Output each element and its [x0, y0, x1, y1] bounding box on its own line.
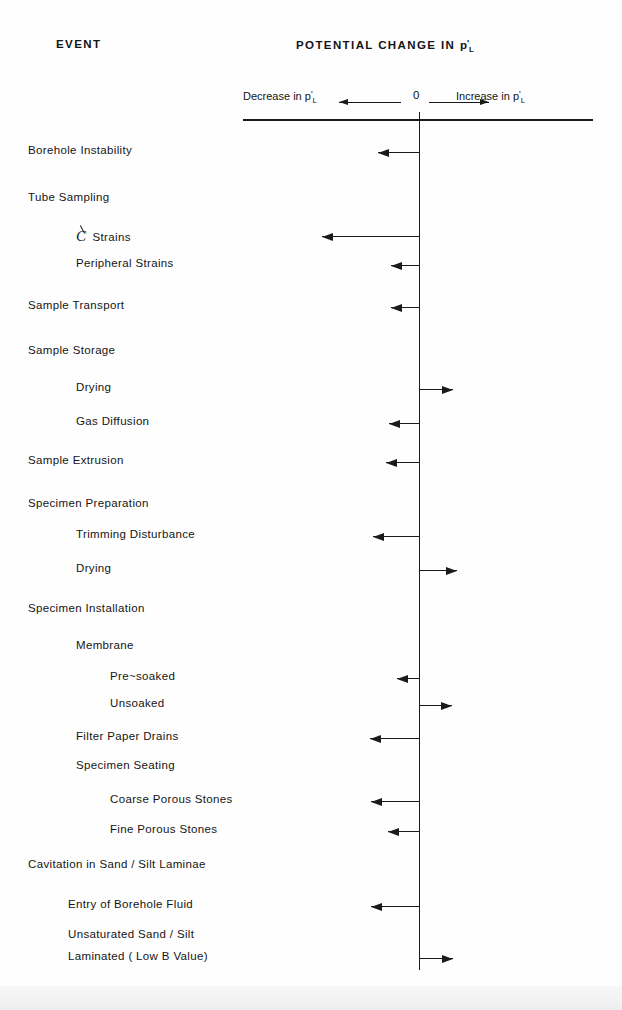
event-label-text: Strains: [89, 231, 131, 243]
event-label: Tube Sampling: [28, 191, 109, 203]
axis-caption-row: Decrease in p'L 0 Increase in p'L: [243, 89, 591, 111]
event-label: Borehole Instability: [28, 144, 132, 156]
centerline-icon: C: [76, 228, 89, 245]
event-label: Coarse Porous Stones: [110, 793, 233, 805]
decrease-arrow-icon: [389, 419, 419, 428]
potential-header-text: POTENTIAL CHANGE IN: [296, 39, 460, 51]
event-label: Specimen Seating: [76, 759, 175, 771]
decrease-arrow-icon: [391, 303, 419, 312]
decrease-arrow-icon: [391, 261, 419, 270]
event-label: C Strains: [76, 228, 131, 245]
decrease-arrow-icon: [373, 532, 419, 541]
decrease-arrow-icon: [371, 797, 419, 806]
event-label: Entry of Borehole Fluid: [68, 898, 193, 910]
potential-header-variable: p: [460, 39, 467, 51]
arrow-left-icon: [339, 99, 401, 106]
event-label: Drying: [76, 562, 111, 574]
scan-artifact: [0, 986, 622, 1010]
event-label: Sample Extrusion: [28, 454, 124, 466]
event-label: Unsoaked: [110, 697, 165, 709]
event-label: Laminated ( Low B Value): [68, 950, 208, 962]
decrease-arrow-icon: [388, 827, 419, 836]
axis-increase-label: Increase in p'L: [456, 89, 525, 105]
event-label: Membrane: [76, 639, 134, 651]
event-label: Unsaturated Sand / Silt: [68, 928, 194, 940]
diagram-sheet: EVENT POTENTIAL CHANGE IN p'L Decrease i…: [0, 0, 622, 1010]
increase-arrow-icon: [419, 566, 457, 575]
axis-decrease-label: Decrease in p'L: [243, 89, 317, 105]
increase-arrow-icon: [419, 954, 453, 963]
decrease-arrow-icon: [370, 734, 419, 743]
event-label: Fine Porous Stones: [110, 823, 217, 835]
event-label: Specimen Installation: [28, 602, 145, 614]
decrease-arrow-icon: [378, 148, 419, 157]
event-label: Drying: [76, 381, 111, 393]
event-column-header: EVENT: [56, 38, 101, 50]
event-label: Filter Paper Drains: [76, 730, 179, 742]
decrease-arrow-icon: [371, 902, 419, 911]
event-label: Cavitation in Sand / Silt Laminae: [28, 858, 206, 870]
potential-change-column-header: POTENTIAL CHANGE IN p'L: [296, 38, 474, 54]
potential-header-subscript: L: [469, 45, 474, 54]
axis-zero-label: 0: [413, 89, 419, 101]
event-label: Sample Transport: [28, 299, 124, 311]
event-label: Specimen Preparation: [28, 497, 149, 509]
event-label: Pre~soaked: [110, 670, 175, 682]
decrease-arrow-icon: [322, 232, 419, 241]
decrease-arrow-icon: [397, 674, 419, 683]
event-label: Peripheral Strains: [76, 257, 174, 269]
increase-arrow-icon: [419, 385, 453, 394]
decrease-arrow-icon: [386, 458, 419, 467]
increase-arrow-icon: [419, 701, 452, 710]
event-label: Trimming Disturbance: [76, 528, 195, 540]
event-label: Gas Diffusion: [76, 415, 149, 427]
event-label: Sample Storage: [28, 344, 115, 356]
